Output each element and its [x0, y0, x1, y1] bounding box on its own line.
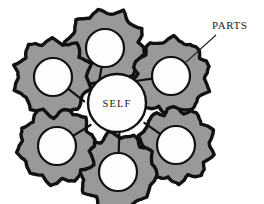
gear-lower-right-hole [157, 126, 195, 164]
gear-bottom-hole [99, 153, 137, 191]
gear-upper-left [14, 38, 92, 119]
gear-upper-right-hole [152, 57, 190, 95]
gear-diagram-svg: SELF PARTS [0, 0, 264, 204]
gear-lower-left-hole [38, 127, 76, 165]
gear-top-hole [86, 29, 124, 67]
self-hub-group: SELF [88, 74, 146, 132]
gear-bottom-slot [119, 132, 120, 153]
gear-upper-left-hole [34, 58, 72, 96]
diagram-canvas: SELF PARTS [0, 0, 264, 204]
parts-label: PARTS [212, 19, 248, 31]
self-hub-label: SELF [103, 98, 132, 109]
